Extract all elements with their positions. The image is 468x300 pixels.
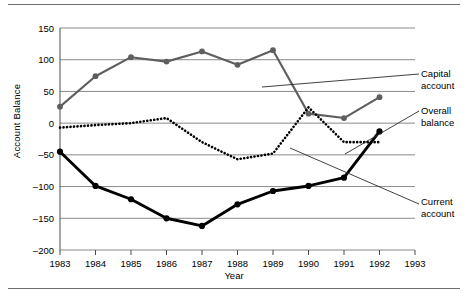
line-chart-svg: 150100500–50–100–150–200 198319841985198… [0, 8, 468, 284]
series-point [270, 188, 276, 194]
x-tick-label: 1985 [120, 258, 141, 269]
chart-figure: 150100500–50–100–150–200 198319841985198… [0, 8, 468, 284]
x-axis-title: Year [224, 270, 243, 281]
annotation-capital-account: Capital account [421, 68, 454, 91]
series-point [93, 73, 99, 79]
series-point [341, 175, 347, 181]
y-axis-title-wrap: Account Balance [6, 66, 24, 176]
x-tick-label: 1988 [227, 258, 248, 269]
annotation-overall-balance: Overall balance [421, 105, 454, 128]
y-axis-title: Account Balance [11, 84, 22, 158]
series-point [341, 115, 347, 121]
series-point [128, 196, 134, 202]
x-tick-label: 1989 [262, 258, 283, 269]
data-series-group [57, 47, 383, 229]
x-tick-label: 1991 [333, 258, 354, 269]
y-tick-label: –50 [38, 149, 54, 160]
series-line [60, 131, 380, 226]
series-line [60, 107, 380, 159]
x-tick-label: 1992 [369, 258, 390, 269]
x-tick-label: 1983 [49, 258, 70, 269]
annotation-capital-account-line2: account [421, 80, 454, 92]
series-point [92, 183, 98, 189]
leader-overall-balance [345, 111, 419, 154]
series-point [57, 104, 63, 110]
gridlines-group [60, 28, 415, 250]
annotation-current-account: Current account [421, 196, 454, 219]
series-point [270, 47, 276, 53]
series-point [235, 62, 241, 68]
y-tick-label: –200 [33, 245, 54, 256]
annotation-current-account-line2: account [421, 208, 454, 220]
series-point [199, 49, 205, 55]
y-tick-label: 150 [38, 23, 54, 34]
x-tick-labels-group: 1983198419851986198719881989199019911992… [49, 258, 425, 269]
y-tick-labels-group: 150100500–50–100–150–200 [33, 23, 54, 256]
x-tick-label: 1993 [404, 258, 425, 269]
series-point [57, 149, 63, 155]
x-tick-label: 1987 [191, 258, 212, 269]
x-tick-label: 1986 [156, 258, 177, 269]
series-point [128, 54, 134, 60]
chart-figure-page: 150100500–50–100–150–200 198319841985198… [0, 0, 468, 300]
leader-capital-account [262, 74, 419, 87]
series-point [234, 201, 240, 207]
annotation-overall-balance-line1: Overall [421, 105, 454, 117]
annotation-current-account-line1: Current [421, 196, 454, 208]
series-point [163, 215, 169, 221]
series-point [199, 223, 205, 229]
x-tick-label: 1984 [85, 258, 106, 269]
x-tick-label: 1990 [298, 258, 319, 269]
series-point [306, 111, 312, 117]
series-point [305, 183, 311, 189]
annotation-overall-balance-line2: balance [421, 117, 454, 129]
series-point [377, 94, 383, 100]
top-divider-rule [8, 4, 460, 5]
x-tick-marks-group [60, 250, 415, 255]
y-tick-label: 50 [43, 86, 54, 97]
y-tick-label: 0 [49, 118, 54, 129]
x-axis-title-wrap: Year [0, 270, 468, 281]
y-tick-label: 100 [38, 54, 54, 65]
y-tick-label: –150 [33, 213, 54, 224]
leader-current-account [290, 148, 419, 204]
series-line [60, 50, 380, 118]
annotation-capital-account-line1: Capital [421, 68, 454, 80]
y-tick-label: –100 [33, 181, 54, 192]
series-point [164, 59, 170, 65]
bottom-divider-rule [8, 288, 460, 289]
